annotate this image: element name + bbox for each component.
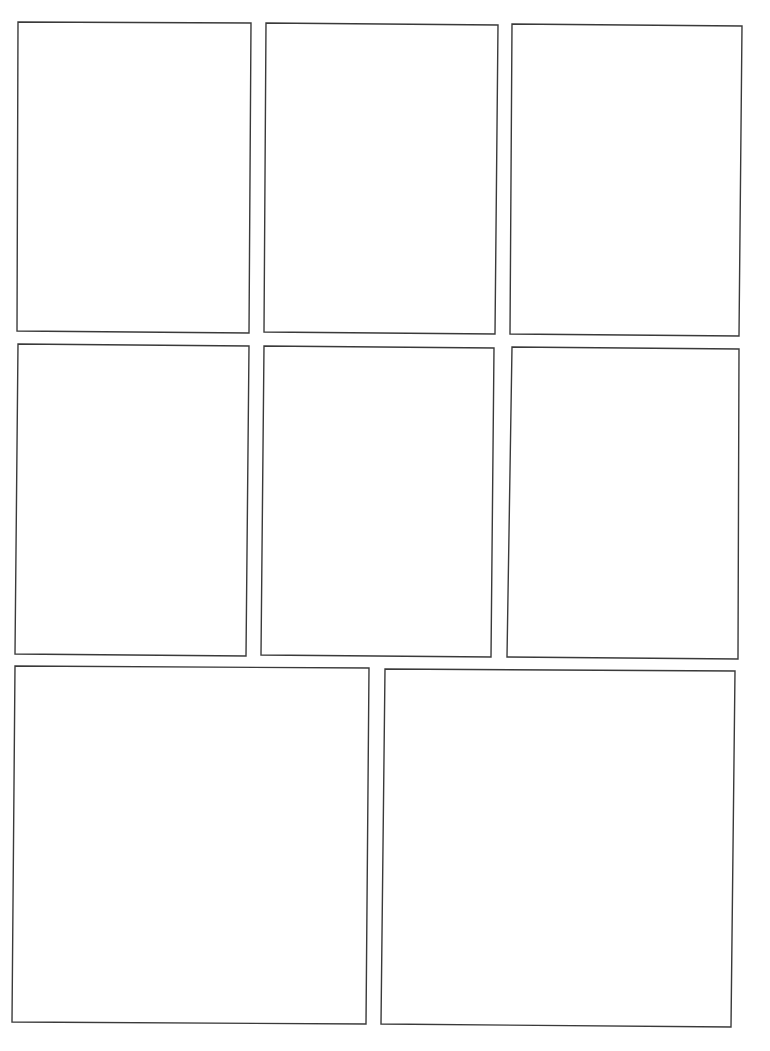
panel-5 — [261, 346, 494, 657]
panel-7 — [12, 666, 369, 1024]
panel-1 — [17, 22, 251, 333]
panel-8 — [381, 669, 735, 1027]
panel-3 — [510, 24, 742, 336]
panel-4 — [15, 344, 249, 656]
comic-page — [0, 0, 770, 1051]
panel-6 — [507, 347, 739, 659]
panel-2 — [264, 23, 498, 334]
